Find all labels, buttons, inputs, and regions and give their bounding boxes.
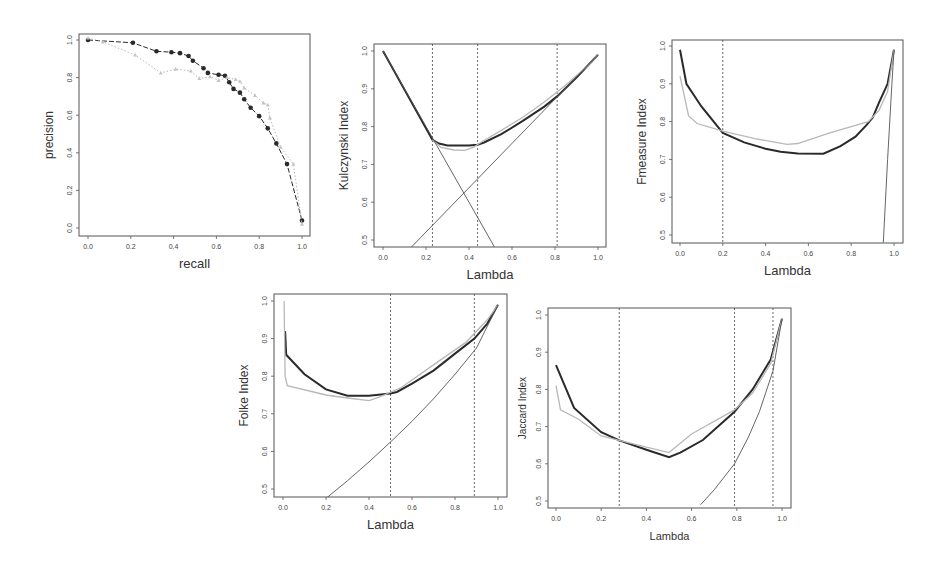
y-tick-label: 1.0 [535, 310, 542, 320]
x-tick-label: 0.8 [732, 515, 742, 522]
y-tick-label: 0.8 [535, 384, 542, 394]
y-tick-label: 0.6 [535, 459, 542, 469]
x-axis-title: Lambda [650, 530, 691, 542]
series-line [556, 319, 782, 453]
y-tick-label: 0.5 [535, 496, 542, 506]
x-tick-label: 0.4 [642, 515, 652, 522]
y-axis-title: Jaccard Index [517, 377, 528, 439]
x-tick-label: 0.0 [551, 515, 561, 522]
x-tick-label: 1.0 [777, 515, 787, 522]
x-tick-label: 0.2 [596, 515, 606, 522]
x-tick-label: 0.6 [687, 515, 697, 522]
figure-canvas: 0.00.20.40.60.81.00.00.20.40.60.81.0reca… [0, 0, 940, 565]
y-tick-label: 0.9 [535, 347, 542, 357]
plot-frame [548, 308, 791, 508]
y-tick-label: 0.7 [535, 422, 542, 432]
chart-jaccard-index: 0.00.20.40.60.81.00.50.60.70.80.91.0Lamb… [0, 0, 940, 565]
series-line [701, 319, 782, 505]
series-line [556, 319, 782, 457]
